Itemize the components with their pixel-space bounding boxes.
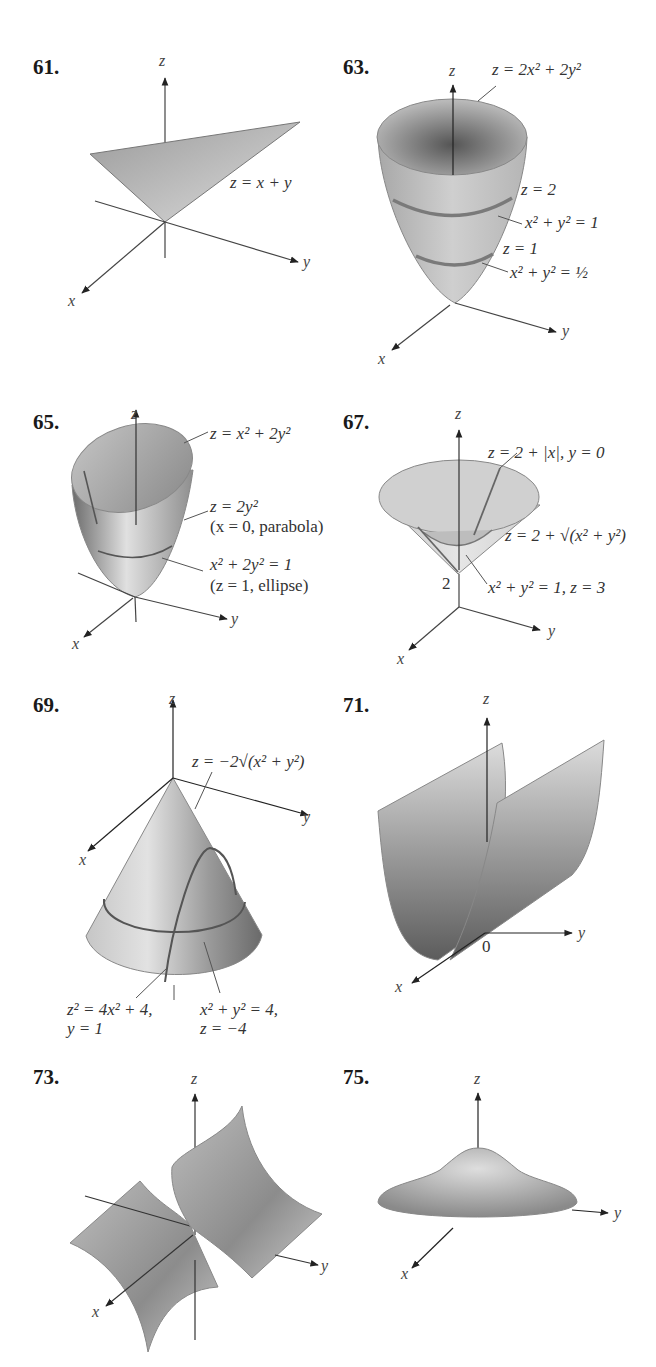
diagram-canvas [0,0,656,1367]
z-axis-label: z [159,52,165,70]
y-axis-label: y [231,610,238,628]
trace-note-circle: z = −4 [200,1019,247,1039]
plane-surface [90,122,300,222]
exercise-number: 69. [33,693,59,718]
z-axis-label: z [169,690,175,708]
exercise-number: 71. [343,693,369,718]
x-axis [82,222,165,293]
x-axis-label: x [401,1265,408,1283]
z-axis-label: z [474,1070,480,1088]
y-axis [135,597,227,619]
trace-label-parabola: z = 2y² [210,497,258,517]
trace-label-circle: x² + y² = 1, z = 3 [488,578,605,598]
x-axis-label: x [68,292,75,310]
z-axis-label: z [449,62,455,80]
x-axis [412,1228,453,1268]
y-axis [275,1255,318,1265]
y-axis-label: y [562,322,569,340]
x-axis-label: x [92,1303,99,1321]
exercise-number: 73. [33,1065,59,1090]
y-axis [459,607,540,630]
y-axis-label: y [578,924,585,942]
y-axis [572,1210,608,1213]
figure-65-graphic [60,409,227,637]
z-intercept-tick: 2 [442,574,451,594]
surface-equation: z = 2 + √(x² + y²) [505,526,626,546]
x-axis [84,598,133,637]
y-axis-label: y [614,1204,621,1222]
origin-label: 0 [482,937,491,957]
figure-75-graphic [378,1093,608,1268]
exercise-number: 63. [343,55,369,80]
x-axis-label: x [397,650,404,668]
exercise-number: 75. [343,1065,369,1090]
z-axis-label: z [455,405,461,423]
trace-label-circle-half: x² + y² = ½ [510,263,588,283]
y-axis [165,222,298,262]
trace-label-hyperbola: z² = 4x² + 4, [67,1000,153,1020]
x-axis [392,305,450,350]
level-label-z1: z = 1 [503,239,538,259]
x-axis-label: x [378,350,385,368]
x-axis-label: x [72,635,79,653]
surface-equation: z = x + y [230,173,292,193]
y-axis [455,303,556,332]
figure-73-graphic [70,1094,322,1352]
exercise-number: 67. [343,410,369,435]
x-axis [409,607,459,650]
paraboloid-rim [377,99,527,175]
bell-surface [378,1148,577,1217]
trace-label-circle: x² + y² = 4, [200,1000,278,1020]
surface-equation: z = −2√(x² + y²) [192,752,304,772]
trace-label-circle1: x² + y² = 1 [525,213,599,233]
z-axis-label: z [131,405,137,423]
trace-label-ellipse: x² + 2y² = 1 [210,555,292,575]
surface-equation: z = 2x² + 2y² [492,60,581,80]
exercise-number: 61. [33,55,59,80]
trace-label-line: z = 2 + |x|, y = 0 [488,443,604,463]
figure-69-graphic [86,700,308,1000]
cone-surface [86,778,262,975]
y-axis-label: y [321,1257,328,1275]
z-axis-label: z [483,690,489,708]
x-axis-label: x [395,978,402,996]
x-axis-label: x [79,851,86,869]
z-axis-label: z [191,1070,197,1088]
trace-note-hyperbola: y = 1 [67,1019,103,1039]
surface-equation: z = x² + 2y² [210,424,290,444]
y-axis-label: y [303,808,310,826]
figure-71-graphic [378,718,604,983]
y-axis-label: y [303,253,310,271]
level-label-z2: z = 2 [521,180,556,200]
y-axis-label: y [548,622,555,640]
exercise-number: 65. [33,410,59,435]
trace-note-ellipse: (z = 1, ellipse) [210,576,308,596]
y-axis [173,778,308,815]
trace-note-parabola: (x = 0, parabola) [210,517,323,537]
